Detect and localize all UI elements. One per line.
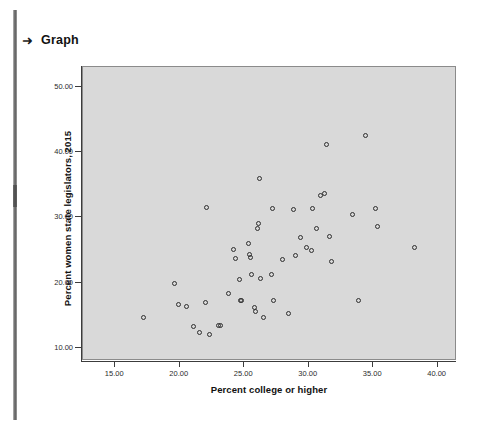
data-point [356, 298, 361, 303]
data-point [191, 324, 196, 329]
x-tick-mark [372, 361, 373, 367]
data-point [270, 206, 275, 211]
data-point [255, 226, 260, 231]
y-tick-mark [75, 151, 81, 152]
data-point [233, 256, 238, 261]
x-tick-mark [114, 361, 115, 367]
data-point [293, 253, 298, 258]
data-point [269, 272, 274, 277]
data-point [256, 221, 261, 226]
data-point [203, 300, 208, 305]
data-point [291, 207, 296, 212]
plot-area [82, 66, 456, 360]
data-point [204, 205, 209, 210]
x-tick-label: 20.00 [157, 369, 201, 378]
data-point [324, 142, 329, 147]
data-point [176, 302, 181, 307]
scatter-plot-chart: 10.0020.0030.0040.0050.00 15.0020.0025.0… [0, 0, 482, 432]
data-point [373, 206, 378, 211]
data-point [309, 248, 314, 253]
data-point [172, 281, 177, 286]
x-tick-mark [437, 361, 438, 367]
x-tick-label: 40.00 [415, 369, 459, 378]
data-point [218, 323, 223, 328]
data-point [310, 206, 315, 211]
data-point [280, 257, 285, 262]
data-point [248, 255, 253, 260]
data-point [329, 259, 334, 264]
y-tick-mark [75, 282, 81, 283]
data-point [239, 298, 244, 303]
data-point [246, 241, 251, 246]
data-point [261, 315, 266, 320]
data-point [249, 272, 254, 277]
data-point [412, 245, 417, 250]
x-tick-label: 35.00 [350, 369, 394, 378]
x-tick-label: 25.00 [221, 369, 265, 378]
data-point [207, 332, 212, 337]
data-point [237, 277, 242, 282]
data-point [286, 311, 291, 316]
y-axis-title: Percent women state legislators, 2015 [62, 89, 73, 349]
x-tick-label: 30.00 [286, 369, 330, 378]
x-tick-mark [243, 361, 244, 367]
x-tick-mark [308, 361, 309, 367]
x-axis-title: Percent college or higher [82, 384, 456, 395]
data-point [304, 245, 309, 250]
data-point [322, 191, 327, 196]
data-point [271, 298, 276, 303]
data-point [257, 176, 262, 181]
x-tick-label: 15.00 [92, 369, 136, 378]
data-point [298, 235, 303, 240]
data-point [314, 226, 319, 231]
y-axis-line [81, 66, 82, 361]
data-point [197, 330, 202, 335]
y-tick-mark [75, 216, 81, 217]
data-point [258, 276, 263, 281]
data-point [226, 291, 231, 296]
data-point [327, 234, 332, 239]
y-tick-mark [75, 86, 81, 87]
data-point [141, 315, 146, 320]
data-point [363, 133, 368, 138]
x-axis-line [81, 361, 456, 362]
data-point [375, 224, 380, 229]
data-point [253, 309, 258, 314]
data-point [231, 247, 236, 252]
data-point [350, 212, 355, 217]
x-tick-mark [179, 361, 180, 367]
data-point [184, 304, 189, 309]
y-tick-mark [75, 347, 81, 348]
